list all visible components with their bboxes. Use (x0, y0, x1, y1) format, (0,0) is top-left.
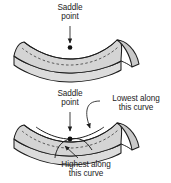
saddle-point-figure: Saddle point Saddle point Lowest along t… (0, 0, 171, 183)
top-surface-right-arch-inner (121, 61, 132, 67)
label-saddle-point-bottom: Saddle point (48, 89, 92, 108)
top-saddle-point-dot (68, 45, 73, 50)
label-highest-line1: Highest along (52, 160, 120, 169)
label-lowest-line2: this curve (104, 103, 168, 112)
label-saddle-point-bottom-line1: Saddle (48, 89, 92, 98)
bottom-surface-right-arch-inner (121, 144, 132, 150)
label-saddle-point-top-line2: point (48, 12, 92, 21)
bottom-saddle-point-dot (68, 137, 73, 142)
label-highest-along-curve: Highest along this curve (52, 160, 120, 179)
label-saddle-point-top-line1: Saddle (48, 3, 92, 12)
label-saddle-point-bottom-line2: point (48, 98, 92, 107)
label-lowest-along-curve: Lowest along this curve (104, 94, 168, 113)
label-saddle-point-top: Saddle point (48, 3, 92, 22)
label-lowest-line1: Lowest along (104, 94, 168, 103)
label-highest-line2: this curve (52, 169, 120, 178)
top-saddle-surface (14, 26, 139, 82)
